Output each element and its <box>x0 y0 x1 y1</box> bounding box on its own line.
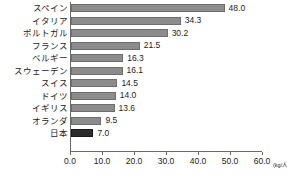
x-axis-tick <box>230 152 231 155</box>
bar <box>71 67 123 75</box>
x-axis-tick <box>134 152 135 155</box>
bar <box>71 117 101 125</box>
x-axis-tick-label: 30.0 <box>158 156 175 166</box>
bar-value-label: 13.6 <box>119 103 136 114</box>
bar-value-label: 16.3 <box>127 53 144 64</box>
x-axis-tick-label: 10.0 <box>94 156 111 166</box>
category-label: フランス <box>2 40 68 53</box>
x-axis-tick-label: 20.0 <box>126 156 143 166</box>
x-axis-tick-label: 40.0 <box>190 156 207 166</box>
bar-row: 48.0 <box>71 2 262 15</box>
bar-value-label: 14.5 <box>121 78 138 89</box>
category-label: イギリス <box>2 102 68 115</box>
bar-row: 7.0 <box>71 127 262 140</box>
category-label: ベルギー <box>2 52 68 65</box>
x-axis-tick <box>70 152 71 155</box>
bar <box>71 17 181 25</box>
bar <box>71 92 116 100</box>
category-label: スイス <box>2 77 68 90</box>
bar-row: 21.5 <box>71 40 262 53</box>
plot-area: 48.034.330.221.516.316.114.514.013.69.57… <box>70 2 262 152</box>
bar <box>71 104 115 112</box>
category-label: ポルトガル <box>2 27 68 40</box>
bar-value-label: 16.1 <box>127 65 144 76</box>
bar-row: 13.6 <box>71 102 262 115</box>
x-axis-tick <box>262 152 263 155</box>
bar <box>71 4 225 12</box>
x-axis-tick-label: 50.0 <box>222 156 239 166</box>
category-axis-labels: スペインイタリアポルトガルフランスベルギースウェーデンスイスドイツイギリスオラン… <box>0 2 68 152</box>
x-axis-tick <box>198 152 199 155</box>
x-axis-tick-label: 60.0 <box>254 156 271 166</box>
bar-value-label: 48.0 <box>229 3 246 14</box>
bar-value-label: 7.0 <box>97 128 109 139</box>
bar <box>71 79 117 87</box>
bar-chart: スペインイタリアポルトガルフランスベルギースウェーデンスイスドイツイギリスオラン… <box>0 0 287 175</box>
bar-row: 30.2 <box>71 27 262 40</box>
bar-row: 9.5 <box>71 115 262 128</box>
axis-unit-label: (kg/人/年) <box>273 161 287 169</box>
category-label: 日本 <box>2 127 68 140</box>
bar-row: 16.3 <box>71 52 262 65</box>
bar <box>71 29 168 37</box>
bar-row: 34.3 <box>71 15 262 28</box>
bar-value-label: 14.0 <box>120 90 137 101</box>
category-label: オランダ <box>2 115 68 128</box>
bar-row: 14.5 <box>71 77 262 90</box>
category-label: スペイン <box>2 2 68 15</box>
x-axis-tick <box>166 152 167 155</box>
bar <box>71 42 140 50</box>
bar <box>71 54 123 62</box>
category-label: イタリア <box>2 15 68 28</box>
x-axis: 0.010.020.030.040.050.060.0(kg/人/年) <box>70 152 262 174</box>
bar-value-label: 30.2 <box>172 28 189 39</box>
bar-row: 14.0 <box>71 90 262 103</box>
x-axis-tick-label: 0.0 <box>64 156 76 166</box>
category-label: ドイツ <box>2 90 68 103</box>
bar-value-label: 9.5 <box>105 115 117 126</box>
category-label: スウェーデン <box>2 65 68 78</box>
bar-value-label: 34.3 <box>185 15 202 26</box>
bar-row: 16.1 <box>71 65 262 78</box>
bar <box>71 129 93 137</box>
x-axis-tick <box>102 152 103 155</box>
bar-value-label: 21.5 <box>144 40 161 51</box>
